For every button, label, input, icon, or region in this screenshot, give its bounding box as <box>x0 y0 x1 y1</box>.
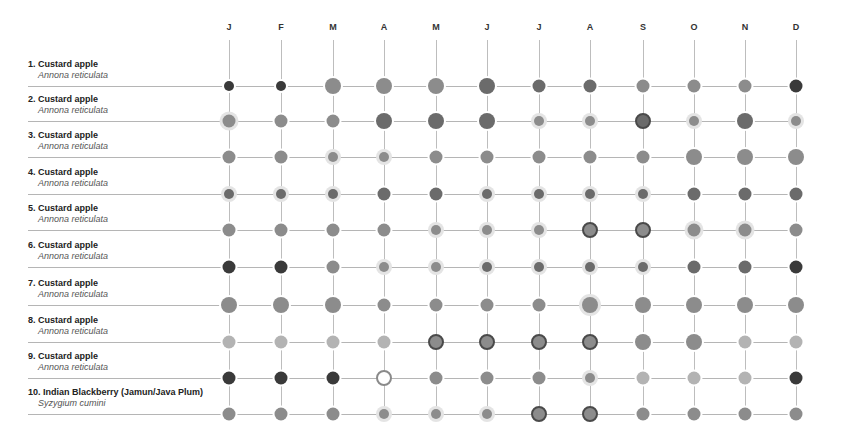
month-dot <box>635 334 651 350</box>
month-dot <box>688 372 701 385</box>
species-scientific-name: Syzygium cumini <box>28 398 203 408</box>
month-dot <box>635 297 651 313</box>
row-label: 9. Custard appleAnnona reticulata <box>28 351 108 372</box>
species-scientific-name: Annona reticulata <box>28 141 108 151</box>
month-header: F <box>278 22 284 32</box>
month-dot <box>223 151 236 164</box>
species-scientific-name: Annona reticulata <box>28 326 108 336</box>
month-dot <box>533 299 546 312</box>
month-dot <box>378 188 391 201</box>
month-dot <box>688 408 701 421</box>
month-dot <box>582 334 598 350</box>
month-header: D <box>793 22 800 32</box>
month-dot <box>638 189 648 199</box>
row-label: 4. Custard appleAnnona reticulata <box>28 167 108 188</box>
month-dot <box>689 116 699 126</box>
month-dot <box>790 80 803 93</box>
row-label: 8. Custard appleAnnona reticulata <box>28 315 108 336</box>
species-common-name: 2. Custard apple <box>28 94 108 105</box>
month-dot <box>739 408 752 421</box>
month-dot <box>584 80 597 93</box>
row-baseline <box>28 414 796 415</box>
species-scientific-name: Annona reticulata <box>28 70 108 80</box>
month-header: A <box>381 22 388 32</box>
month-dot <box>325 78 341 94</box>
month-dot <box>275 115 288 128</box>
month-dot <box>737 149 753 165</box>
month-dot <box>481 372 494 385</box>
month-dot <box>327 408 340 421</box>
month-dot <box>533 372 546 385</box>
month-dot <box>582 406 598 422</box>
month-dot <box>379 409 389 419</box>
row-label: 1. Custard appleAnnona reticulata <box>28 59 108 80</box>
month-header: J <box>536 22 541 32</box>
month-dot <box>638 262 648 272</box>
month-dot <box>737 297 753 313</box>
month-dot <box>739 336 752 349</box>
month-header: J <box>484 22 489 32</box>
month-dot <box>276 189 286 199</box>
month-dot <box>223 261 236 274</box>
month-dot <box>790 261 803 274</box>
month-dot <box>327 261 340 274</box>
month-dot <box>479 78 495 94</box>
month-dot <box>534 116 544 126</box>
month-dot <box>431 225 441 235</box>
month-dot <box>585 373 595 383</box>
month-dot <box>430 188 443 201</box>
species-scientific-name: Annona reticulata <box>28 105 108 115</box>
species-scientific-name: Annona reticulata <box>28 362 108 372</box>
month-dot <box>223 336 236 349</box>
month-dot <box>534 189 544 199</box>
month-dot <box>479 113 495 129</box>
month-dot <box>275 224 288 237</box>
month-header: M <box>432 22 440 32</box>
row-baseline <box>28 194 796 195</box>
month-dot <box>327 372 340 385</box>
month-dot <box>739 261 752 274</box>
month-dot <box>327 336 340 349</box>
month-dot <box>739 224 752 237</box>
month-dot <box>223 115 236 128</box>
row-baseline <box>28 267 796 268</box>
month-dot <box>534 225 544 235</box>
species-common-name: 1. Custard apple <box>28 59 108 70</box>
species-common-name: 10. Indian Blackberry (Jamun/Java Plum) <box>28 387 203 398</box>
month-dot <box>790 408 803 421</box>
row-label: 10. Indian Blackberry (Jamun/Java Plum)S… <box>28 387 203 408</box>
month-dot <box>376 370 392 386</box>
month-dot <box>431 262 441 272</box>
month-dot <box>378 299 391 312</box>
month-dot <box>686 297 702 313</box>
month-dot <box>739 80 752 93</box>
month-header: S <box>640 22 646 32</box>
row-label: 2. Custard appleAnnona reticulata <box>28 94 108 115</box>
month-dot <box>430 151 443 164</box>
species-scientific-name: Annona reticulata <box>28 289 108 299</box>
month-dot <box>224 189 234 199</box>
species-common-name: 6. Custard apple <box>28 240 108 251</box>
month-dot <box>275 261 288 274</box>
month-dot <box>428 78 444 94</box>
month-dot <box>637 151 650 164</box>
month-dot <box>482 189 492 199</box>
month-dot <box>585 189 595 199</box>
month-dot <box>688 80 701 93</box>
month-dot <box>637 372 650 385</box>
month-dot <box>790 224 803 237</box>
month-dot <box>430 372 443 385</box>
month-dot <box>276 81 286 91</box>
month-dot <box>378 224 391 237</box>
month-dot <box>428 113 444 129</box>
month-dot <box>635 222 651 238</box>
month-dot <box>688 261 701 274</box>
month-dot <box>428 334 444 350</box>
month-dot <box>273 297 289 313</box>
month-dot <box>482 409 492 419</box>
species-common-name: 4. Custard apple <box>28 167 108 178</box>
month-dot <box>739 188 752 201</box>
species-common-name: 9. Custard apple <box>28 351 108 362</box>
month-dot <box>637 408 650 421</box>
row-baseline <box>28 342 796 343</box>
